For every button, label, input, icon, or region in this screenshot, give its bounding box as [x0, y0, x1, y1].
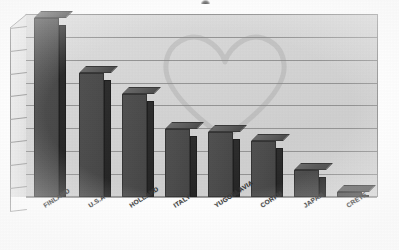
bar-top-face — [34, 11, 73, 18]
bar-value: 3 — [165, 76, 166, 77]
bar-top-face — [79, 66, 118, 73]
cropped-title-mark — [201, 0, 210, 4]
bar-side-face — [104, 80, 111, 197]
bar-value: 5.45 — [79, 20, 80, 21]
bar-front-face — [34, 18, 59, 197]
bar-holland[interactable]: 4.5 — [122, 41, 147, 197]
bar-side-face — [190, 136, 197, 197]
bar-top-face — [122, 87, 161, 94]
bar-top-face — [251, 134, 290, 141]
bar-front-face — [251, 141, 276, 197]
bar-usa[interactable]: 5.45 — [79, 20, 104, 197]
bars-layer: 7.85 5.45 4.5 3 2.85 — [0, 0, 399, 250]
bar-value: 4.5 — [122, 41, 123, 42]
bar-corfu[interactable]: 2.45 — [251, 88, 276, 197]
bar-front-face — [208, 132, 233, 197]
bar-top-face — [337, 185, 376, 192]
bar-finland[interactable]: 7.85 — [34, 0, 59, 197]
bar-yugoslavia[interactable]: 2.85 — [208, 79, 233, 197]
bar-value: 2.85 — [208, 79, 209, 80]
bar-front-face — [122, 94, 147, 197]
bar-side-face — [147, 101, 154, 197]
bar-japan[interactable]: 1.2 — [294, 117, 319, 197]
bar-side-face — [59, 25, 66, 197]
bar-top-face — [294, 163, 333, 170]
bar-top-face — [208, 125, 247, 132]
bar-value: 2.45 — [251, 88, 252, 89]
bar-top-face — [165, 122, 204, 129]
bar-front-face — [165, 129, 190, 197]
bar-front-face — [79, 73, 104, 197]
bar-value: 0.1 — [337, 139, 338, 140]
bar-crete[interactable]: 0.1 — [337, 139, 362, 197]
chart-screenshot: 7.85 5.45 4.5 3 2.85 — [0, 0, 399, 250]
bar-value: 1.2 — [294, 117, 295, 118]
bar-italy[interactable]: 3 — [165, 76, 190, 197]
